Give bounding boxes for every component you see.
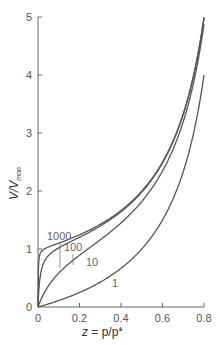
- curves: [38, 17, 204, 307]
- x-tick-label: 0.6: [155, 312, 170, 324]
- y-tick-label: 2: [26, 185, 32, 197]
- curve-label-10: 10: [86, 256, 98, 268]
- curve-c-1: [38, 75, 204, 307]
- curve-label-100: 100: [64, 241, 82, 253]
- y-tick-label: 4: [26, 69, 32, 81]
- curve-label-1: 1: [112, 277, 118, 289]
- x-ticks: 00.20.40.60.8: [35, 303, 212, 324]
- y-tick-label: 0: [26, 301, 32, 313]
- x-tick-label: 0.2: [72, 312, 87, 324]
- curve-c-10: [38, 24, 204, 307]
- y-tick-label: 1: [26, 243, 32, 255]
- y-tick-label: 5: [26, 11, 32, 23]
- bet-isotherm-chart: 012345 00.20.40.60.8 1000 100 10 1 z = p…: [0, 0, 220, 345]
- y-axis-title: V/Vmon: [7, 167, 22, 200]
- x-tick-label: 0.4: [113, 312, 128, 324]
- curve-c-100: [38, 18, 204, 307]
- curve-c-1000: [38, 17, 204, 307]
- curve-labels: 1000 100 10 1: [47, 230, 118, 289]
- x-tick-label: 0.8: [196, 312, 211, 324]
- axes: [38, 17, 204, 307]
- x-axis-title: z = p/p*: [81, 325, 123, 339]
- y-tick-label: 3: [26, 127, 32, 139]
- x-tick-label: 0: [35, 312, 41, 324]
- y-ticks: 012345: [26, 11, 42, 313]
